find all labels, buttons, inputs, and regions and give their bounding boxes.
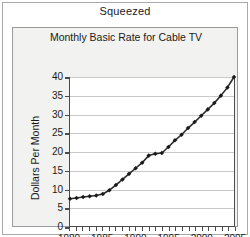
- x-axis-tick-label: 1995: [152, 233, 186, 237]
- x-axis-tick-mark: [69, 227, 70, 231]
- y-axis-tick-label: 10: [37, 185, 63, 195]
- x-axis-tick-mark: [89, 227, 90, 231]
- x-axis-tick-mark: [189, 227, 190, 231]
- data-point-marker: [81, 195, 86, 200]
- x-axis-tick-mark: [76, 227, 77, 231]
- x-axis-tick-mark: [195, 227, 196, 231]
- data-point-marker: [94, 193, 99, 198]
- data-series-line: [70, 77, 234, 226]
- y-axis-tick-label: 30: [37, 110, 63, 120]
- x-axis-tick-mark: [142, 227, 143, 231]
- x-axis-tick-mark: [82, 227, 83, 231]
- x-axis-tick-mark: [182, 227, 183, 231]
- x-axis-tick-mark: [215, 227, 216, 231]
- x-axis-tick-mark: [222, 227, 223, 231]
- y-axis-tick-label: 35: [37, 91, 63, 101]
- data-point-marker: [74, 196, 79, 201]
- x-axis-tick-mark: [102, 227, 103, 231]
- y-axis-tick-label: 15: [37, 166, 63, 176]
- chart-title: Monthly Basic Rate for Cable TV: [13, 31, 239, 43]
- data-point-marker: [68, 197, 73, 202]
- x-axis-tick-mark: [208, 227, 209, 231]
- x-axis-tick-mark: [135, 227, 136, 231]
- x-axis-tick-mark: [175, 227, 176, 231]
- x-axis-tick-mark: [169, 227, 170, 231]
- x-axis-tick-mark: [228, 227, 229, 231]
- y-axis-tick-label: 20: [37, 147, 63, 157]
- x-axis-tick-label: 1985: [85, 233, 119, 237]
- plot-area: [69, 77, 235, 227]
- x-axis-tick-mark: [202, 227, 203, 231]
- x-axis-tick-label: 2000: [185, 233, 219, 237]
- x-axis-tick-mark: [109, 227, 110, 231]
- x-axis-tick-label: 1980: [52, 233, 86, 237]
- x-axis-tick-mark: [122, 227, 123, 231]
- y-axis-tick-label: 0: [37, 222, 63, 232]
- x-axis-tick-label: 2005: [218, 233, 250, 237]
- x-axis-tick-mark: [115, 227, 116, 231]
- chart-card: Monthly Basic Rate for Cable TV Dollars …: [12, 27, 238, 227]
- y-axis-tick-label: 5: [37, 203, 63, 213]
- x-axis-tick-mark: [149, 227, 150, 231]
- x-axis-tick-label: 1990: [118, 233, 152, 237]
- x-axis-tick-mark: [235, 227, 236, 231]
- data-point-marker: [153, 151, 158, 156]
- figure-container: Squeezed Monthly Basic Rate for Cable TV…: [0, 0, 250, 237]
- x-axis-tick-mark: [96, 227, 97, 231]
- y-axis-tick-label: 25: [37, 128, 63, 138]
- x-axis-tick-mark: [162, 227, 163, 231]
- y-axis-tick-label: 40: [37, 72, 63, 82]
- figure-caption: Squeezed: [0, 5, 250, 17]
- data-point-marker: [87, 194, 92, 199]
- x-axis-tick-mark: [129, 227, 130, 231]
- x-axis-tick-mark: [155, 227, 156, 231]
